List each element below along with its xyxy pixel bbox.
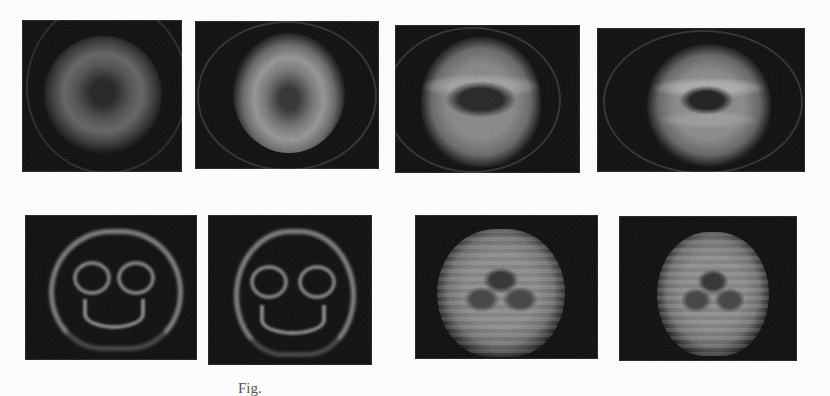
skull-outline [234, 229, 356, 357]
mouth-arc [260, 305, 326, 335]
skull-outline [49, 229, 183, 351]
mouth-arc [83, 299, 145, 329]
banded-blob [421, 37, 541, 167]
left-eye-ring [73, 261, 111, 295]
figure-panel-8 [619, 216, 797, 361]
skull-solid [657, 232, 769, 356]
banded-blob [647, 44, 771, 166]
skull-solid [437, 229, 565, 357]
donut-pattern [44, 36, 162, 154]
figure-panel-2 [195, 21, 379, 169]
figure-panel-5 [25, 215, 197, 360]
left-eye-ring [250, 265, 288, 299]
donut-pattern [233, 33, 345, 153]
right-eye-ring [117, 261, 155, 295]
right-eye-ring [298, 265, 336, 299]
figure-panel-6 [208, 215, 372, 365]
figure-panel-7 [415, 215, 598, 359]
figure-panel-1 [22, 20, 182, 172]
figure-caption: Fig. [238, 381, 262, 396]
figure-panel-3 [395, 25, 580, 173]
figure-panel-4 [597, 28, 805, 172]
